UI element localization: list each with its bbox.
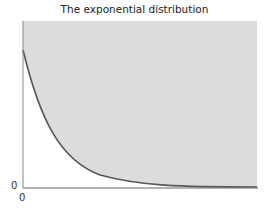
x-tick-0: 0 bbox=[19, 192, 25, 203]
exponential-chart bbox=[0, 0, 269, 211]
y-tick-0: 0 bbox=[11, 180, 17, 191]
